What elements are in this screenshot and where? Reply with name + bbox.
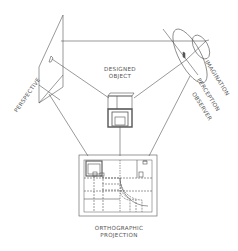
designed-object-label: DESIGNED OBJECT bbox=[97, 66, 143, 80]
designed-object-label-line1: DESIGNED bbox=[97, 66, 143, 73]
designed-object-label-line2: OBJECT bbox=[97, 73, 143, 80]
orthographic-drawing bbox=[79, 155, 157, 216]
orthographic-label-line1: ORTHOGRAPHIC bbox=[84, 225, 154, 232]
orthographic-label: ORTHOGRAPHIC PROJECTION bbox=[84, 225, 154, 239]
observer-eye bbox=[163, 24, 214, 87]
orthographic-label-line2: PROJECTION bbox=[84, 232, 154, 239]
designed-object bbox=[108, 93, 134, 127]
diagram-canvas bbox=[0, 0, 238, 251]
perspective-plane bbox=[39, 15, 63, 103]
